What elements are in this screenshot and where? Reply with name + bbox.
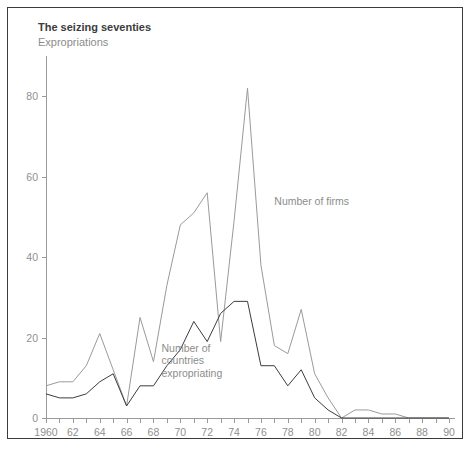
y-axis-tick-label: 60: [26, 171, 38, 183]
expropriations-line-chart: The seizing seventies Expropriations 020…: [8, 8, 462, 438]
x-axis-tick-label: 90: [443, 426, 455, 438]
y-axis-tick-label: 20: [26, 332, 38, 344]
chart-series: [46, 88, 449, 418]
y-axis-tick-label: 0: [32, 412, 38, 424]
x-axis-tick-label: 74: [228, 426, 240, 438]
chart-title: The seizing seventies: [38, 21, 151, 33]
x-axis-tick-label: 88: [416, 426, 428, 438]
series-line-number-of-firms: [46, 88, 449, 418]
x-axis-tick-label: 86: [389, 426, 401, 438]
x-axis-tick-label: 72: [201, 426, 213, 438]
x-axis-tick-label: 66: [121, 426, 133, 438]
x-axis-tick-label: 78: [282, 426, 294, 438]
series-annotation-label: Number of firms: [274, 195, 349, 207]
x-axis-tick-label: 62: [67, 426, 79, 438]
series-annotation-label: Number of: [162, 342, 211, 354]
x-axis-tick-label: 80: [309, 426, 321, 438]
x-axis-tick-label: 1960: [34, 426, 58, 438]
y-axis-tick-label: 80: [26, 90, 38, 102]
x-axis-tick-label: 70: [174, 426, 186, 438]
series-annotation-label: countries: [162, 354, 205, 366]
x-axis-tick-label: 64: [94, 426, 106, 438]
chart-figure-frame: The seizing seventies Expropriations 020…: [7, 7, 463, 439]
chart-annotations: Number of firmsNumber ofcountriesexpropr…: [162, 195, 350, 379]
x-axis: 1960626466687072747678808284868890: [34, 418, 455, 438]
y-axis: 020406080: [26, 56, 46, 424]
x-axis-tick-label: 82: [336, 426, 348, 438]
chart-subtitle: Expropriations: [38, 36, 109, 48]
y-axis-tick-label: 40: [26, 251, 38, 263]
series-line-number-of-countries-expropriating: [46, 301, 449, 418]
x-axis-tick-label: 68: [148, 426, 160, 438]
series-annotation-label: expropriating: [162, 367, 223, 379]
x-axis-tick-label: 84: [363, 426, 375, 438]
x-axis-tick-label: 76: [255, 426, 267, 438]
